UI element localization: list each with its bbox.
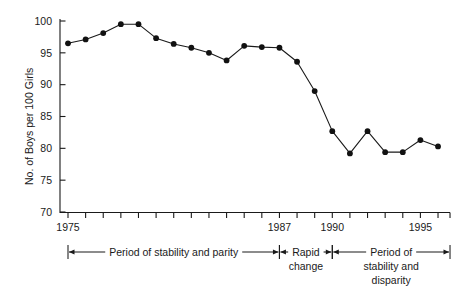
data-point-1981 [171,41,177,47]
data-point-1980 [153,35,159,41]
y-tick-label-75: 75 [40,174,52,186]
x-tick-label-1987: 1987 [268,221,292,233]
y-axis-title-label: No. of Boys per 100 Girls [23,68,35,185]
x-tick-label-1975: 1975 [56,221,80,233]
annotation-arrow-left [333,249,339,254]
y-axis-tick-labels: 707580859095100 [34,15,52,218]
annotation-label-period-stability-disparity-line-1: stability and [363,260,419,272]
data-point-1978 [118,21,124,27]
data-point-1991 [347,151,353,157]
data-point-1989 [312,88,318,94]
chart-svg: No. of Boys per 100 Girls 70758085909510… [0,0,462,292]
annotation-label-rapid-change-line-1: change [289,260,324,272]
data-point-1977 [100,30,106,36]
data-point-1996 [435,144,441,150]
data-point-1979 [136,21,142,27]
y-axis-title: No. of Boys per 100 Girls [23,68,35,185]
data-point-1975 [65,40,71,46]
annotation-arrow-right [444,249,450,254]
data-point-1992 [365,128,371,134]
data-point-1990 [329,128,335,134]
annotation-arrow-right [273,249,279,254]
x-tick-label-1995: 1995 [409,221,433,233]
annotation-arrow-left [69,249,75,254]
chart-container: No. of Boys per 100 Girls 70758085909510… [0,0,462,292]
x-tick-label-1990: 1990 [321,221,345,233]
data-point-1982 [188,45,194,51]
y-axis-ticks [60,21,66,212]
annotation-label-period-stability-disparity-line-2: disparity [372,274,412,286]
data-point-1976 [83,37,89,43]
y-tick-label-85: 85 [40,110,52,122]
annotation-label-rapid-change-line-0: Rapid [292,246,320,258]
data-point-1984 [224,58,230,64]
data-point-markers [65,21,441,156]
y-tick-label-100: 100 [34,15,52,27]
data-point-1993 [382,149,388,155]
x-axis-ticks [68,213,450,219]
x-axis-tick-labels: 1975198719901995 [56,221,432,233]
y-tick-label-90: 90 [40,78,52,90]
data-point-1995 [418,137,424,143]
data-point-1987 [277,45,283,51]
y-tick-label-80: 80 [40,142,52,154]
y-tick-label-95: 95 [40,47,52,59]
data-point-1994 [400,149,406,155]
data-point-1983 [206,50,212,56]
data-point-1986 [259,44,265,50]
annotation-arrow-left [280,249,286,254]
annotation-arrow-right [326,249,332,254]
data-point-1988 [294,59,300,65]
y-tick-label-70: 70 [40,206,52,218]
data-point-1985 [241,43,247,49]
data-line-series [68,24,438,153]
annotation-label-period-stability-parity-line-0: Period of stability and parity [109,246,239,258]
annotation-label-period-stability-disparity-line-0: Period of [370,246,412,258]
plot-axes [60,19,450,213]
